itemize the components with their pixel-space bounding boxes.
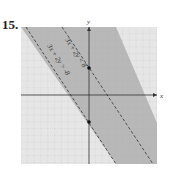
y-axis-label: y bbox=[86, 18, 91, 26]
x-axis-label: x bbox=[159, 92, 164, 100]
point-ym4 bbox=[87, 120, 91, 124]
inequality-graph: x y 3x + 2y < 8 3x + 2y > -8 bbox=[0, 0, 169, 175]
point-y4 bbox=[87, 66, 91, 70]
